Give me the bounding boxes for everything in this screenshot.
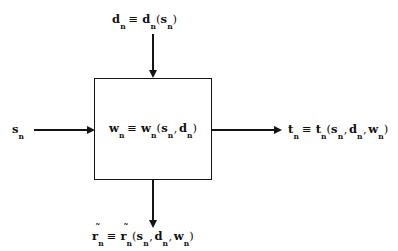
state-symbol: sn bbox=[12, 122, 24, 136]
arrow-shaft bbox=[212, 129, 276, 131]
reward-arg3-symbol: wn bbox=[174, 229, 189, 243]
work-arg2-var: d bbox=[179, 121, 187, 135]
arrow-shaft bbox=[34, 129, 89, 131]
work-lhs-var: w bbox=[109, 121, 119, 135]
reward-rhs-sub: n bbox=[127, 239, 132, 248]
reward-arg2-var: d bbox=[154, 229, 162, 243]
work-arg1-sub: n bbox=[168, 131, 173, 140]
equiv-sign: ≡ bbox=[129, 12, 139, 26]
transition-arg1-var: s bbox=[331, 122, 338, 136]
decision-arg1-sub: n bbox=[167, 22, 172, 31]
reward-lhs-sub: n bbox=[98, 239, 103, 248]
decision-lhs-symbol: dn bbox=[112, 12, 126, 26]
comma: , bbox=[149, 229, 153, 243]
reward-arg3-var: w bbox=[174, 229, 184, 243]
tilde-accent-icon: ˜ bbox=[124, 223, 129, 233]
transition-arg3-var: w bbox=[368, 122, 378, 136]
work-rhs-sub: n bbox=[151, 131, 156, 140]
reward-arg1-sub: n bbox=[143, 239, 148, 248]
transition-rhs-symbol: tn bbox=[316, 122, 327, 136]
transition-arg2-var: d bbox=[349, 122, 357, 136]
reward-rhs-symbol: ˜rn bbox=[120, 231, 132, 243]
state-var: s bbox=[12, 122, 19, 136]
close-paren: ) bbox=[384, 122, 389, 136]
reward-arg3-sub: n bbox=[184, 239, 189, 248]
transition-lhs-sub: n bbox=[293, 132, 298, 141]
work-arg2-symbol: dn bbox=[179, 121, 193, 135]
work-lhs-sub: n bbox=[119, 131, 124, 140]
transition-lhs-symbol: tn bbox=[288, 122, 299, 136]
transition-arg3-symbol: wn bbox=[368, 122, 383, 136]
equiv-sign: ≡ bbox=[127, 121, 137, 135]
decision-rhs-symbol: dn bbox=[142, 12, 156, 26]
stage-n-block: wn≡wn(sn,dn) bbox=[94, 78, 212, 180]
transition-arg1-symbol: sn bbox=[331, 122, 343, 136]
work-arg1-symbol: sn bbox=[161, 121, 173, 135]
arrowhead-down-icon bbox=[149, 220, 157, 228]
tilde-accent-icon: ˜ bbox=[95, 223, 100, 233]
close-paren: ) bbox=[193, 121, 198, 135]
work-lhs-symbol: wn bbox=[109, 121, 124, 135]
reward-arg1-symbol: sn bbox=[137, 229, 149, 243]
arrow-shaft bbox=[152, 34, 154, 72]
transition-arg2-sub: n bbox=[357, 132, 362, 141]
transition-output-label: tn≡tn(sn,dn,wn) bbox=[288, 124, 388, 136]
arrowhead-right-icon bbox=[274, 126, 282, 134]
transition-arg3-sub: n bbox=[378, 132, 383, 141]
block-diagram: dn≡dn(sn) sn wn≡wn(sn,dn) tn≡tn(sn,dn,wn… bbox=[0, 0, 398, 251]
transition-arg2-symbol: dn bbox=[349, 122, 363, 136]
comma: , bbox=[174, 121, 178, 135]
transition-arg1-sub: n bbox=[338, 132, 343, 141]
transition-rhs-sub: n bbox=[321, 132, 326, 141]
work-arg2-sub: n bbox=[187, 131, 192, 140]
decision-lhs-var: d bbox=[112, 12, 120, 26]
comma: , bbox=[344, 122, 348, 136]
reward-output-label: ˜rn≡˜rn(sn,dn,wn) bbox=[92, 231, 194, 243]
decision-input-label: dn≡dn(sn) bbox=[112, 14, 177, 26]
state-sub: n bbox=[19, 132, 24, 141]
stage-n-block-label: wn≡wn(sn,dn) bbox=[95, 123, 211, 135]
comma: , bbox=[363, 122, 367, 136]
equiv-sign: ≡ bbox=[302, 122, 312, 136]
work-rhs-symbol: wn bbox=[141, 121, 156, 135]
work-arg1-var: s bbox=[161, 121, 168, 135]
reward-arg2-symbol: dn bbox=[154, 229, 168, 243]
decision-rhs-sub: n bbox=[151, 22, 156, 31]
reward-arg2-sub: n bbox=[163, 239, 168, 248]
arrowhead-down-icon bbox=[149, 70, 157, 78]
reward-lhs-symbol: ˜rn bbox=[92, 231, 104, 243]
close-paren: ) bbox=[189, 229, 194, 243]
state-input-label: sn bbox=[12, 124, 24, 136]
close-paren: ) bbox=[173, 12, 178, 26]
comma: , bbox=[169, 229, 173, 243]
decision-rhs-var: d bbox=[142, 12, 150, 26]
work-rhs-var: w bbox=[141, 121, 151, 135]
decision-arg1-symbol: sn bbox=[161, 12, 173, 26]
arrow-shaft bbox=[152, 180, 154, 222]
equiv-sign: ≡ bbox=[107, 229, 117, 243]
decision-lhs-sub: n bbox=[120, 22, 125, 31]
